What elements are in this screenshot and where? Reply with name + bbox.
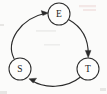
node-s[interactable]: S <box>9 58 31 80</box>
scan-noise-bottom-right <box>100 88 106 91</box>
edge-e-to-t <box>69 20 92 58</box>
edge-e-to-t-path <box>69 20 89 55</box>
node-e[interactable]: E <box>48 3 70 25</box>
edge-s-to-e-arrowhead <box>41 11 48 16</box>
state-cycle-diagram: E S T <box>0 0 107 94</box>
node-t-label: T <box>85 64 91 74</box>
edge-t-to-s-path <box>32 77 81 86</box>
edge-s-to-e <box>12 11 49 59</box>
edge-s-to-e-path <box>12 13 46 58</box>
edge-e-to-t-arrowhead <box>85 50 91 57</box>
ghost-mark-top-right-b <box>83 9 96 11</box>
node-layer: E S T <box>9 3 99 80</box>
node-e-label: E <box>56 9 62 19</box>
edge-t-to-s <box>29 77 81 86</box>
ghost-mark-middle <box>36 30 56 32</box>
ghost-mark-top-right-a <box>79 5 96 7</box>
diagram-svg: E S T <box>0 0 107 94</box>
scan-noise-left <box>0 24 4 26</box>
node-t[interactable]: T <box>77 58 99 80</box>
node-s-label: S <box>17 64 22 74</box>
scan-noise-bottom-left <box>0 91 7 94</box>
ghost-mark-center <box>44 44 60 46</box>
